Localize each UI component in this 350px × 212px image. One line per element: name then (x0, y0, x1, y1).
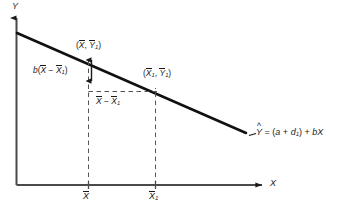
vertical-offset-subtrahend-sub: 1 (62, 69, 65, 75)
point2-x-sub: 1 (152, 72, 155, 78)
equation-predictor: X (317, 127, 323, 137)
horizontal-offset-label: X − X1 (96, 97, 120, 106)
x-tick-label-xbar-base: X (83, 192, 89, 201)
equation-lhs: Y (256, 128, 262, 137)
vertical-offset-subtrahend: X (56, 66, 62, 75)
x-axis-label: X (270, 179, 276, 188)
point2-y-sub: 1 (165, 72, 168, 78)
point1-y-sub: 1 (95, 44, 98, 50)
regression-line (17, 33, 246, 133)
point-label-group-mean: (X1, Y1) (143, 69, 171, 78)
x-tick-label-xbar1: X1 (149, 192, 158, 201)
point1-x-base: X (79, 41, 85, 50)
horizontal-offset-minuend: X (96, 97, 102, 106)
regression-figure: Y X (X, Y1) (X1, Y1) b(X − X1) X − X1 Y … (0, 0, 350, 212)
y-axis-label: Y (12, 2, 18, 11)
equation-adjust: d (291, 127, 296, 137)
figure-canvas (0, 0, 350, 212)
equation-adjust-sub: 1 (296, 130, 299, 137)
horizontal-offset-subtrahend-sub: 1 (117, 100, 120, 106)
point-label-mean-x-adjusted-y: (X, Y1) (76, 41, 101, 50)
point2-x-base: X (146, 69, 152, 78)
vertical-offset-label: b(X − X1) (33, 66, 68, 75)
x-tick-label-xbar1-sub: 1 (155, 194, 158, 201)
equation-leader (249, 134, 256, 136)
vertical-offset-minuend: X (41, 66, 47, 75)
x-tick-label-xbar: X (83, 192, 89, 201)
regression-equation-label: Y = (a + d1) + bX (256, 128, 323, 137)
